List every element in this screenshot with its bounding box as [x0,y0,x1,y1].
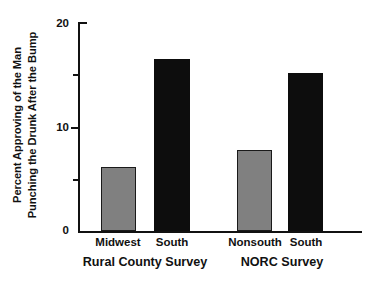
plot-area: 20 10 0 [78,22,362,231]
bar-nonsouth-norc[interactable] [237,150,272,232]
y-axis-title-line-1: Percent Approving of the Man [10,32,25,218]
y-axis-title: Percent Approving of the Man Punching th… [0,0,48,250]
x-tick-label-midwest: Midwest [95,236,140,248]
bar-midwest-rural[interactable] [101,167,136,231]
group-label-rural-county-survey: Rural County Survey [83,255,208,269]
bar-chart-figure: Percent Approving of the Man Punching th… [0,0,378,282]
x-tick-label-south-2: South [290,236,323,248]
y-tick-label-0: 0 [63,224,69,236]
y-tick-20 [78,22,87,24]
group-label-norc-survey: NORC Survey [241,255,324,269]
y-tick-label-20: 20 [56,17,69,29]
y-tick-label-10: 10 [56,121,69,133]
x-tick-label-nonsouth: Nonsouth [228,236,282,248]
bar-south-rural[interactable] [154,59,190,231]
bar-south-norc[interactable] [288,73,323,231]
y-axis-title-line-2: Punching the Drunk After the Bump [24,32,39,218]
x-tick-label-south-1: South [156,236,189,248]
y-tick-5-minor [73,179,80,181]
y-tick-15-minor [73,74,80,76]
x-axis-line [78,231,362,233]
y-tick-10 [71,127,80,129]
